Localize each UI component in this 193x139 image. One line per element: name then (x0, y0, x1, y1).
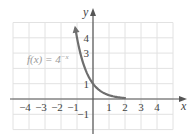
y-tick-label: −1 (77, 108, 89, 120)
x-tick-label: 1 (106, 101, 112, 113)
x-tick-label: −2 (51, 101, 63, 113)
function-graph: x y −4−3−2−11234 431−1 f(x) = 4−x (0, 0, 193, 139)
axes (10, 8, 187, 134)
x-axis-label: x (180, 99, 187, 113)
curve-arrow-icon (73, 26, 80, 34)
x-tick-labels: −4−3−2−11234 (19, 101, 160, 113)
x-tick-label: 3 (138, 101, 144, 113)
x-tick-label: 2 (122, 101, 128, 113)
function-label-exponent: −x (61, 53, 70, 61)
function-label: f(x) = 4−x (27, 53, 69, 66)
y-tick-label: 1 (84, 78, 90, 90)
y-tick-label: 3 (84, 47, 90, 59)
function-label-base: f(x) = 4 (27, 53, 61, 66)
x-tick-label: −4 (19, 101, 31, 113)
y-tick-label: 4 (84, 32, 90, 44)
x-tick-label: 4 (154, 101, 160, 113)
y-axis-arrow-icon (90, 8, 96, 16)
y-axis-label: y (82, 5, 89, 19)
x-tick-label: −3 (35, 101, 47, 113)
